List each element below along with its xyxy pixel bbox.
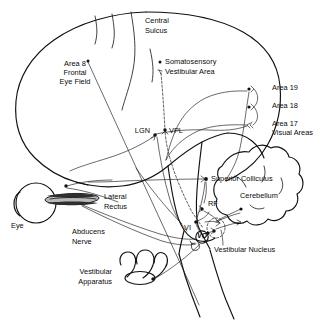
lateral-rectus-line2: Rectus bbox=[104, 202, 127, 211]
vestibular-apparatus-line1: Vestibular bbox=[80, 267, 113, 276]
abducens-line2: Nerve bbox=[72, 237, 92, 246]
cerebellum-label: Cerebellum bbox=[240, 191, 278, 200]
area18-label: Area 18 bbox=[272, 101, 298, 110]
eye-label: Eye bbox=[11, 221, 24, 230]
cerebrum-outline bbox=[16, 12, 281, 187]
vestibular-nucleus-group: Vestibular Nucleus bbox=[203, 207, 276, 254]
central-sulcus-line1: Central bbox=[145, 16, 169, 25]
abducens-nerve-group: Abducens Nerve bbox=[72, 204, 196, 246]
rf-label: RF bbox=[208, 199, 218, 208]
area8-line3: Eye Field bbox=[60, 77, 91, 86]
figure-root: Central Sulcus Area 8 Frontal Eye Field … bbox=[0, 0, 327, 323]
lgn-label: LGN bbox=[135, 126, 150, 135]
somatosensory-origin-dot bbox=[159, 61, 162, 64]
vpl-label: VPL bbox=[169, 126, 183, 135]
cerebellar-node bbox=[239, 207, 242, 210]
vestibular-nucleus-label: Vestibular Nucleus bbox=[214, 245, 276, 254]
somatosensory-line1: Somatosensory bbox=[165, 57, 217, 66]
vestibular-apparatus-line2: Apparatus bbox=[78, 277, 112, 286]
neuroanatomy-diagram: Central Sulcus Area 8 Frontal Eye Field … bbox=[0, 0, 327, 323]
canal-left bbox=[120, 252, 136, 277]
area17-line1: Area 17 bbox=[272, 119, 298, 128]
visual-areas-group: Area 19 Area 18 Area 17 Visual Areas bbox=[166, 83, 313, 180]
vi-label: VI bbox=[184, 223, 191, 232]
area19-label: Area 19 bbox=[272, 83, 298, 92]
utricle bbox=[125, 272, 155, 285]
area17-line2: Visual Areas bbox=[272, 128, 313, 137]
area8-line1: Area 8 bbox=[64, 59, 86, 68]
eye-group: Eye bbox=[11, 183, 56, 230]
superior-colliculus-label: Superior Colliculus bbox=[211, 174, 273, 183]
area19-node bbox=[247, 87, 250, 90]
area8-line2: Frontal bbox=[63, 68, 86, 77]
central-sulcus-line2: Sulcus bbox=[145, 26, 167, 35]
area18-node bbox=[247, 105, 250, 108]
vo-label: VO bbox=[197, 232, 207, 239]
central-sulcus-label: Central Sulcus bbox=[145, 16, 169, 35]
lateral-rectus-line1: Lateral bbox=[104, 192, 127, 201]
abducens-line1: Abducens bbox=[72, 227, 105, 236]
somatosensory-line2: Vestibular Area bbox=[165, 67, 216, 76]
